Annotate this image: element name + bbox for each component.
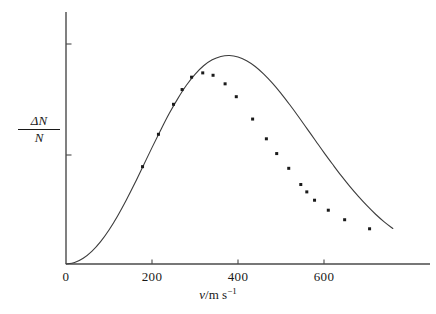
data-point-marker [212, 74, 215, 77]
x-axis-label-exponent: −1 [227, 286, 237, 296]
x-tick-label: 0 [46, 269, 86, 285]
maxwell-distribution-figure: ΔN N v/m s−1 0200400600 [0, 0, 436, 314]
data-point-marker [172, 103, 175, 106]
data-point-marker [275, 152, 278, 155]
data-point-marker [190, 76, 193, 79]
data-point-marker [251, 118, 254, 121]
data-point-marker [327, 209, 330, 212]
distribution-curve [66, 55, 393, 264]
data-point-markers [141, 71, 371, 230]
data-point-marker [265, 137, 268, 140]
x-tick-label: 200 [132, 269, 172, 285]
data-point-marker [141, 165, 144, 168]
data-point-marker [287, 167, 290, 170]
y-axis-label: ΔN N [18, 114, 60, 144]
data-point-marker [343, 218, 346, 221]
data-point-marker [299, 183, 302, 186]
data-point-marker [305, 190, 308, 193]
data-point-marker [157, 133, 160, 136]
data-point-marker [235, 95, 238, 98]
axes-group [66, 12, 430, 264]
x-axis-label-units: m s [209, 287, 227, 302]
data-point-marker [181, 88, 184, 91]
plot-area [0, 0, 436, 314]
x-axis-label: v/m s−1 [0, 286, 436, 303]
y-axis-label-numerator: ΔN [18, 114, 60, 130]
data-point-marker [368, 227, 371, 230]
curve-path [66, 55, 393, 264]
data-point-marker [224, 82, 227, 85]
x-tick-label: 400 [218, 269, 258, 285]
x-tick-label: 600 [304, 269, 344, 285]
data-point-marker [313, 199, 316, 202]
data-point-marker [201, 71, 204, 74]
y-axis-label-denominator: N [18, 130, 60, 145]
